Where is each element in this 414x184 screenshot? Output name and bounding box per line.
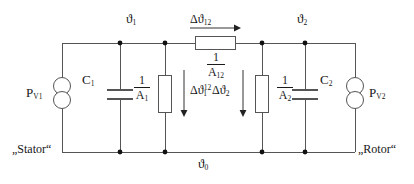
capacitor-label-c2: C2 xyxy=(320,73,332,88)
flow-label-delta-theta-1: Δϑ121 xyxy=(190,84,207,98)
resistor-a12-body xyxy=(195,37,235,50)
capacitor-label-c1: C1 xyxy=(82,73,94,88)
node-dot-top-a1 xyxy=(163,41,168,46)
node-dot-bottom-c2 xyxy=(303,150,308,155)
node-dot-top-c2 xyxy=(303,41,308,46)
node-dot-bottom-a1 xyxy=(163,150,168,155)
node-dot-bottom-a2 xyxy=(260,150,265,155)
resistor-label-a1: 1 A1 xyxy=(131,74,153,103)
resistor-a1-denominator: A1 xyxy=(131,89,153,103)
circuit-diagram: ϑ1 ϑ2 ϑ0 Δϑ12 Δϑ121 Δϑ2 PV1 PV2 C1 C2 1 … xyxy=(0,0,414,184)
source-label-pv1: PV1 xyxy=(26,86,42,101)
node-label-theta0: ϑ0 xyxy=(198,157,208,172)
arrow-delta-theta-12-head xyxy=(234,25,241,32)
node-dot-top-c1 xyxy=(118,41,123,46)
flow-label-delta-theta-12: Δϑ12 xyxy=(190,13,211,27)
resistor-label-a2: 1 A2 xyxy=(274,74,296,103)
resistor-a2-body xyxy=(256,75,269,112)
node-label-theta1: ϑ1 xyxy=(126,12,136,27)
side-label-rotor: „Rotor“ xyxy=(358,143,396,155)
node-dot-top-a2 xyxy=(260,41,265,46)
arrow-delta-theta-2-head xyxy=(240,110,247,117)
resistor-label-a12: 1 A12 xyxy=(204,51,228,80)
node-label-theta2: ϑ2 xyxy=(297,12,307,27)
resistor-a2-denominator: A2 xyxy=(274,89,296,103)
resistor-a12-denominator: A12 xyxy=(204,66,228,80)
side-label-stator: „Stator“ xyxy=(12,143,51,155)
resistor-a1-body xyxy=(159,75,172,112)
source-label-pv2: PV2 xyxy=(369,86,385,101)
source-left-circle-bottom xyxy=(54,92,71,109)
node-dot-bottom-c1 xyxy=(118,150,123,155)
source-right-circle-bottom xyxy=(347,92,364,109)
flow-label-delta-theta-2: Δϑ2 xyxy=(212,84,229,98)
arrow-delta-theta-1-head xyxy=(181,110,188,117)
